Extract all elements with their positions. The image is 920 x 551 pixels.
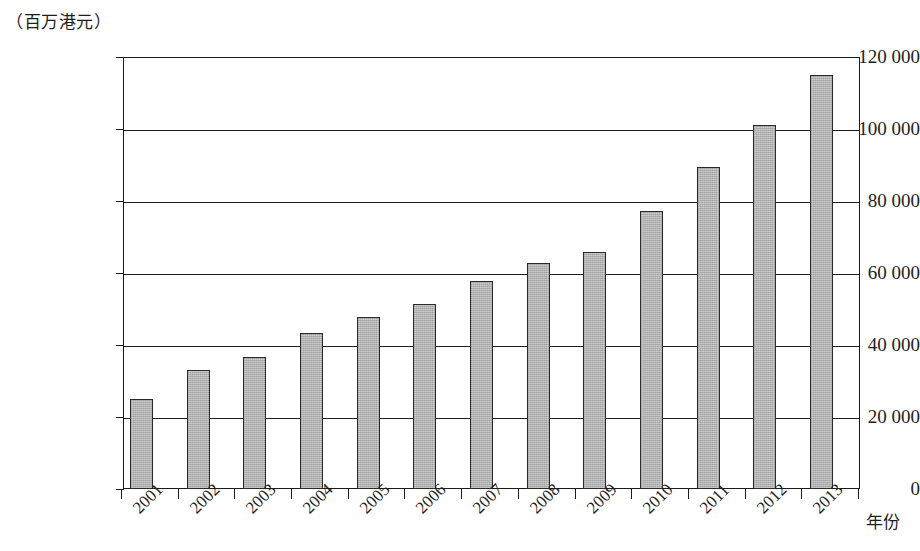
- bar: [357, 317, 380, 489]
- y-axis-tick: [116, 417, 124, 418]
- y-axis-tick-label: 20 000: [810, 406, 920, 428]
- x-axis-tick: [688, 489, 689, 499]
- y-axis-tick: [116, 201, 124, 202]
- x-axis-tick: [461, 489, 462, 499]
- x-axis-tick: [121, 489, 122, 499]
- y-axis-tick: [116, 273, 124, 274]
- y-axis-tick-label: 40 000: [810, 334, 920, 356]
- bar: [583, 252, 606, 489]
- bar: [243, 357, 266, 489]
- y-axis-tick: [116, 57, 124, 58]
- x-axis-tick: [348, 489, 349, 499]
- y-axis-tick-label: 120 000: [810, 46, 920, 68]
- x-axis-tick: [631, 489, 632, 499]
- y-axis-tick-label: 80 000: [810, 190, 920, 212]
- x-axis-tick: [858, 489, 859, 499]
- x-axis-tick: [745, 489, 746, 499]
- y-axis-tick-label: 60 000: [810, 262, 920, 284]
- bars-layer: [123, 57, 860, 489]
- bar: [300, 333, 323, 489]
- x-axis-tick: [801, 489, 802, 499]
- y-axis-tick: [116, 489, 124, 490]
- x-axis-tick: [404, 489, 405, 499]
- y-axis-tick: [116, 345, 124, 346]
- bar-chart-figure: （百万港元） 年份 020 00040 00060 00080 000100 0…: [0, 0, 920, 551]
- x-axis-tick: [178, 489, 179, 499]
- x-axis-tick: [575, 489, 576, 499]
- x-axis-title: 年份: [866, 508, 900, 533]
- bar: [470, 281, 493, 489]
- y-axis-unit-caption: （百万港元）: [6, 8, 111, 33]
- bar: [640, 211, 663, 489]
- x-axis-tick: [518, 489, 519, 499]
- bar: [697, 167, 720, 489]
- y-axis-tick-label: 100 000: [810, 118, 920, 140]
- bar: [753, 125, 776, 489]
- bar: [130, 399, 153, 489]
- y-axis-tick: [116, 129, 124, 130]
- x-axis-tick: [234, 489, 235, 499]
- x-axis-tick: [291, 489, 292, 499]
- bar: [187, 370, 210, 489]
- bar: [527, 263, 550, 489]
- bar: [413, 304, 436, 489]
